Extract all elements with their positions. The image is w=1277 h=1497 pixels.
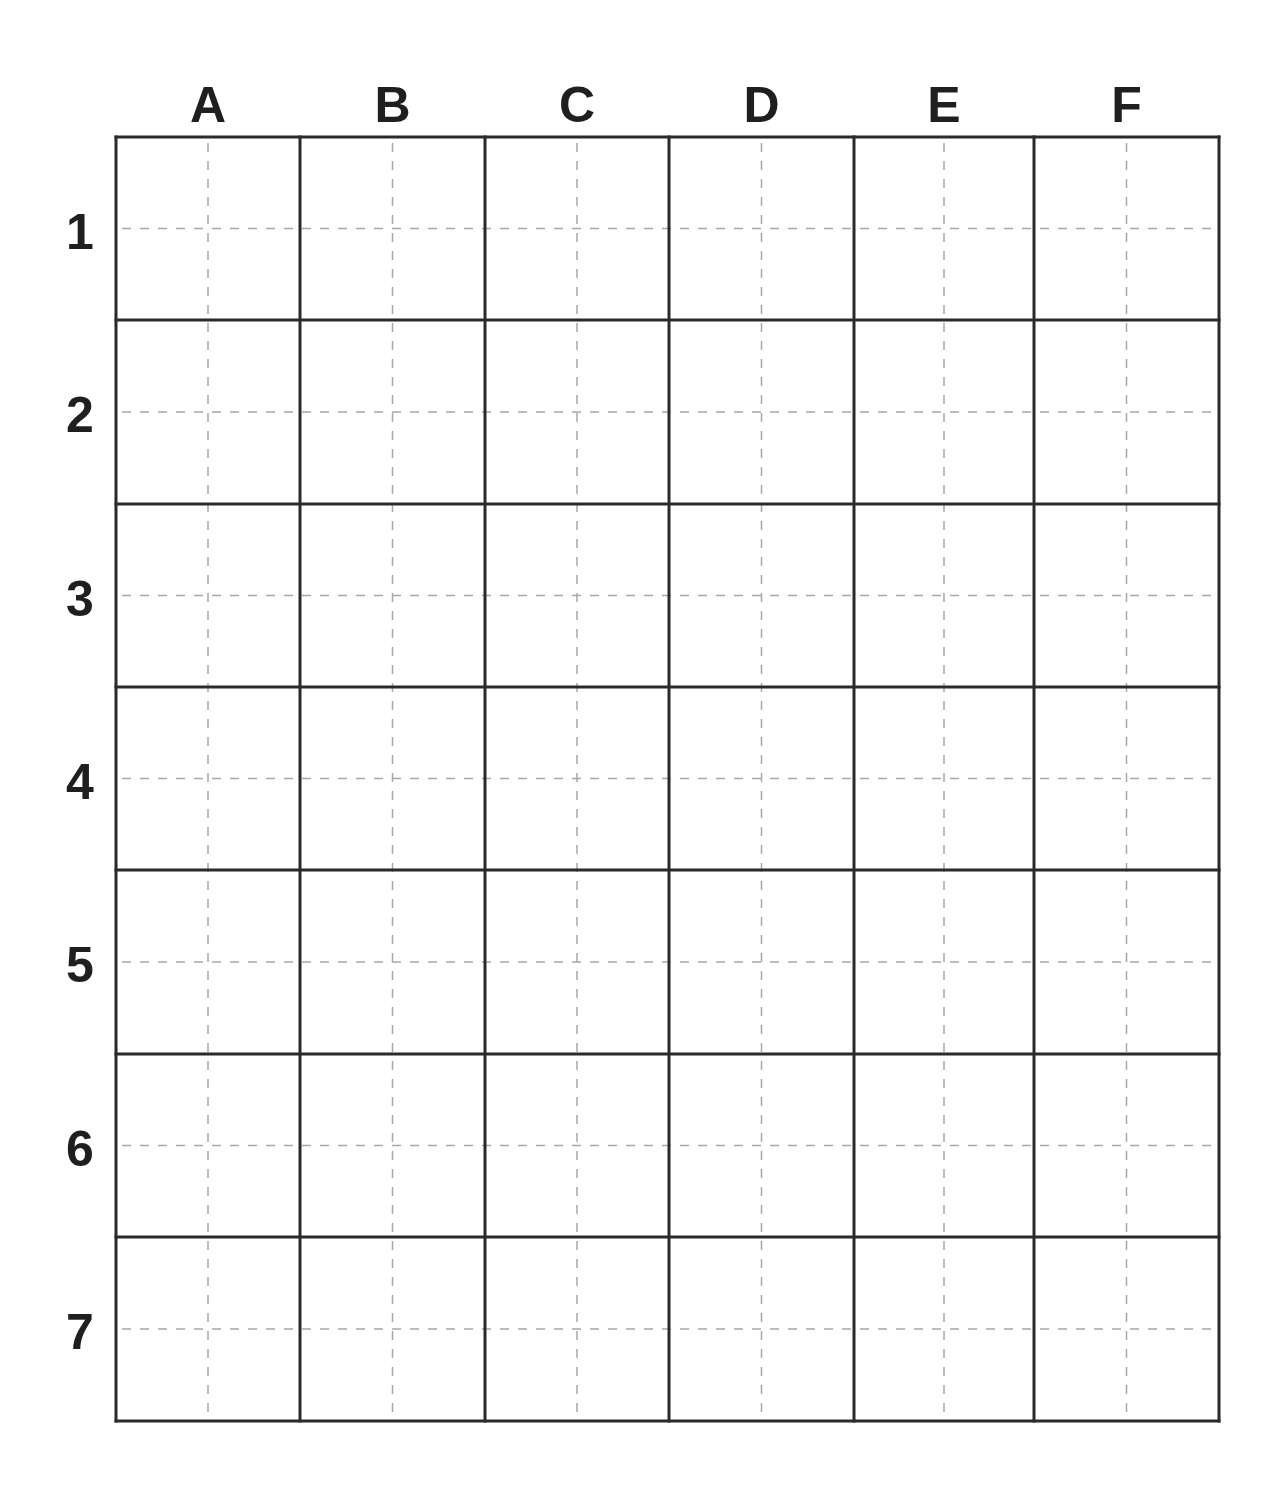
board-cell-c2[interactable] (485, 320, 669, 504)
board-cell-a6[interactable] (116, 1054, 300, 1237)
board-cell-b4[interactable] (300, 687, 485, 870)
board-cell-a4[interactable] (116, 687, 300, 870)
column-label-d: D (743, 80, 779, 130)
board-cell-e3[interactable] (854, 504, 1034, 687)
board-cell-a1[interactable] (116, 137, 300, 320)
board-cell-c5[interactable] (485, 870, 669, 1054)
row-label-7: 7 (66, 1307, 94, 1357)
board-cell-c4[interactable] (485, 687, 669, 870)
board-cell-a3[interactable] (116, 504, 300, 687)
board-cell-e2[interactable] (854, 320, 1034, 504)
column-label-e: E (927, 80, 960, 130)
board-cell-d1[interactable] (669, 137, 854, 320)
column-label-a: A (190, 80, 226, 130)
board-cell-b6[interactable] (300, 1054, 485, 1237)
board-cell-f5[interactable] (1034, 870, 1219, 1054)
board-cell-f7[interactable] (1034, 1237, 1219, 1421)
board-cell-d4[interactable] (669, 687, 854, 870)
board-cell-d7[interactable] (669, 1237, 854, 1421)
column-label-b: B (374, 80, 410, 130)
board-cell-c6[interactable] (485, 1054, 669, 1237)
board-cell-e1[interactable] (854, 137, 1034, 320)
board-cell-b7[interactable] (300, 1237, 485, 1421)
board-cell-f4[interactable] (1034, 687, 1219, 870)
row-label-3: 3 (66, 574, 94, 624)
board-cell-a5[interactable] (116, 870, 300, 1054)
board-cell-d3[interactable] (669, 504, 854, 687)
board-cell-f3[interactable] (1034, 504, 1219, 687)
row-label-2: 2 (66, 390, 94, 440)
board-cell-c7[interactable] (485, 1237, 669, 1421)
board-cell-a2[interactable] (116, 320, 300, 504)
board-cell-e5[interactable] (854, 870, 1034, 1054)
row-label-6: 6 (66, 1124, 94, 1174)
board-cell-b2[interactable] (300, 320, 485, 504)
board-cell-f2[interactable] (1034, 320, 1219, 504)
board-cell-d5[interactable] (669, 870, 854, 1054)
board-cell-b5[interactable] (300, 870, 485, 1054)
row-label-5: 5 (66, 940, 94, 990)
board-cell-e7[interactable] (854, 1237, 1034, 1421)
board-cell-f6[interactable] (1034, 1054, 1219, 1237)
board-cell-e4[interactable] (854, 687, 1034, 870)
board-cell-d6[interactable] (669, 1054, 854, 1237)
column-label-f: F (1111, 80, 1142, 130)
board-cell-d2[interactable] (669, 320, 854, 504)
board-cell-f1[interactable] (1034, 137, 1219, 320)
row-label-4: 4 (66, 757, 94, 807)
board-cell-b1[interactable] (300, 137, 485, 320)
board-cell-b3[interactable] (300, 504, 485, 687)
column-label-c: C (559, 80, 595, 130)
board-cell-c1[interactable] (485, 137, 669, 320)
board-cell-a7[interactable] (116, 1237, 300, 1421)
board-cell-c3[interactable] (485, 504, 669, 687)
row-label-1: 1 (66, 207, 94, 257)
board-cell-e6[interactable] (854, 1054, 1034, 1237)
